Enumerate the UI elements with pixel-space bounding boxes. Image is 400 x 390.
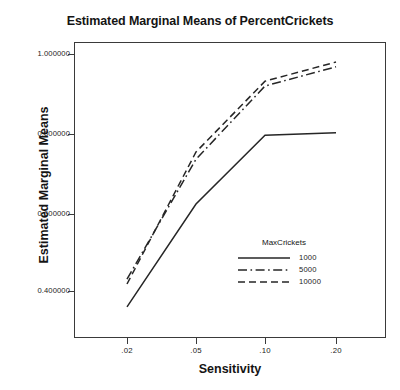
legend-label: 5000: [292, 265, 317, 274]
legend-swatch-5000: [236, 265, 292, 275]
x-axis-title: Sensitivity: [74, 362, 386, 376]
legend-items: 1000500010000: [236, 252, 356, 287]
y-axis-tick-mark: [68, 214, 74, 215]
x-axis-tick-label: .20: [316, 346, 356, 355]
legend-label: 10000: [292, 277, 321, 286]
x-axis-tick-mark: [336, 338, 337, 344]
legend-item[interactable]: 1000: [236, 252, 356, 263]
x-axis-tick-mark: [127, 338, 128, 344]
legend-item[interactable]: 5000: [236, 264, 356, 275]
legend-swatch-10000: [236, 277, 292, 287]
x-axis-tick-label: .02: [107, 346, 147, 355]
x-axis-tick-label: .10: [245, 346, 285, 355]
legend-label: 1000: [292, 253, 317, 262]
x-axis-tick-mark: [196, 338, 197, 344]
legend-title: MaxCrickets: [236, 238, 356, 247]
plot-series-layer: [74, 42, 386, 338]
x-axis-tick-label: .05: [176, 346, 216, 355]
chart-container: Estimated Marginal Means of PercentCrick…: [0, 0, 400, 390]
legend-item[interactable]: 10000: [236, 276, 356, 287]
legend-swatch-1000: [236, 253, 292, 263]
y-axis-tick-mark: [68, 54, 74, 55]
y-axis-tick-mark: [68, 291, 74, 292]
x-axis-tick-mark: [265, 338, 266, 344]
legend: MaxCrickets 1000500010000: [236, 238, 356, 288]
y-axis-title: Estimated Marginal Means: [37, 55, 51, 315]
y-axis-tick-mark: [68, 134, 74, 135]
